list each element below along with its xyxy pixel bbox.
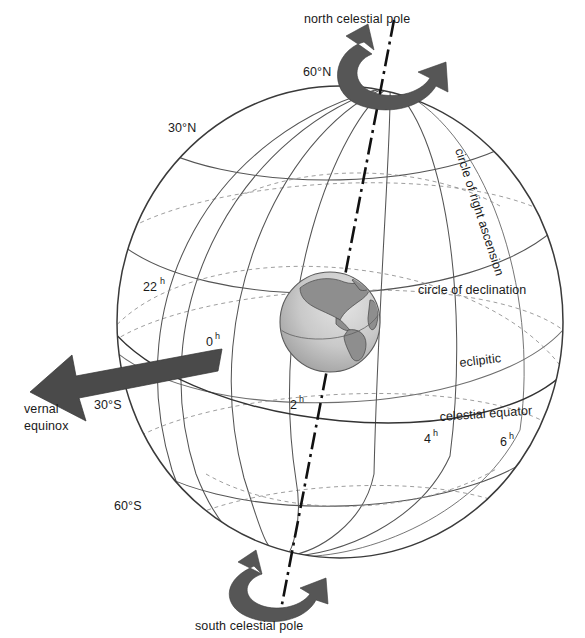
celestial-sphere-diagram: north celestial pole south celestial pol… <box>0 0 585 638</box>
right-ascension-label-22h: 22 h <box>143 276 165 294</box>
north-rotation-arrow <box>337 24 448 110</box>
right-ascension-label-6h: 6 h <box>500 431 514 449</box>
celestial-equator-label: celestial equator <box>439 404 532 424</box>
declination-circle-60n <box>136 84 546 180</box>
svg-text:h: h <box>215 331 220 341</box>
svg-text:h: h <box>299 394 304 404</box>
svg-text:6: 6 <box>500 435 507 449</box>
right-ascension-label-2h: 2 h <box>290 394 304 412</box>
svg-text:22: 22 <box>143 280 157 294</box>
declination-label-30n: 30°N <box>168 121 196 135</box>
south-rotation-arrow <box>229 550 328 622</box>
circle-of-declination-label: circle of declination <box>418 283 526 297</box>
svg-text:h: h <box>433 428 438 438</box>
declination-circle-60s <box>160 485 530 582</box>
ecliptic-label: eclipitic <box>459 351 502 370</box>
declination-label-60n: 60°N <box>303 65 331 79</box>
vernal-equinox-label-line2: equinox <box>24 419 69 433</box>
right-ascension-label-0h: 0 h <box>206 331 220 349</box>
north-celestial-pole-label: north celestial pole <box>304 12 410 26</box>
south-celestial-pole-label: south celestial pole <box>195 619 303 633</box>
svg-text:h: h <box>509 431 514 441</box>
right-ascension-label-4h: 4 h <box>424 428 438 446</box>
svg-text:4: 4 <box>424 432 431 446</box>
circle-of-right-ascension-label: circle of right ascension <box>452 147 506 278</box>
svg-text:0: 0 <box>206 335 213 349</box>
earth-globe <box>280 272 380 372</box>
vernal-equinox-label-line1: vernal <box>24 402 59 416</box>
declination-label-30s: 30°S <box>94 398 122 412</box>
declination-label-60s: 60°S <box>114 499 142 513</box>
svg-text:h: h <box>160 276 165 286</box>
svg-text:2: 2 <box>290 398 297 412</box>
celestial-sphere-illustration: north celestial pole south celestial pol… <box>0 0 585 638</box>
